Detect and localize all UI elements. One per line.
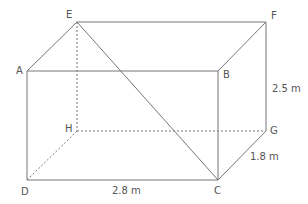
cuboid-diagram: E F A B H G D C 2.5 m 1.8 m 2.8 m xyxy=(0,0,308,204)
vertex-label-a: A xyxy=(16,66,23,76)
edge-ae xyxy=(27,22,77,71)
hidden-edge-dh xyxy=(27,131,77,180)
vertex-label-f: F xyxy=(271,11,277,21)
vertex-label-b: B xyxy=(223,70,230,80)
dimension-depth: 1.8 m xyxy=(250,152,279,162)
diagonal-ec xyxy=(77,22,218,180)
vertex-label-g: G xyxy=(270,126,278,136)
vertex-label-d: D xyxy=(21,187,29,197)
vertex-label-c: C xyxy=(214,186,221,196)
cuboid-drawing xyxy=(0,0,308,204)
vertex-label-e: E xyxy=(66,10,72,20)
edge-bf xyxy=(218,22,266,71)
vertex-label-h: H xyxy=(65,124,73,134)
dimension-height: 2.5 m xyxy=(272,84,301,94)
dimension-length: 2.8 m xyxy=(112,186,141,196)
